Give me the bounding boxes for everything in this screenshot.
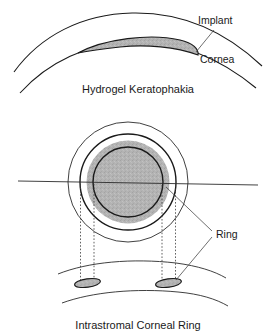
ring-segment-profile-right [155,277,182,289]
ring-segment-profile-left [74,277,101,289]
bottom-panel-group: Ring Intrastromal Corneal Ring [18,122,258,331]
cross-section-anterior-curve [58,261,226,278]
implant-leader-line [196,30,214,52]
ring-label: Ring [216,228,238,240]
ring-leader-line-bottom [176,237,212,280]
figure-container: Implant Cornea Hydrogel Keratophakia [0,0,276,335]
cornea-label: Cornea [200,53,235,65]
gray-lenticule [78,37,198,55]
ring-leader-line-top [166,187,212,231]
top-panel-group: Implant Cornea Hydrogel Keratophakia [14,13,262,95]
top-panel-caption: Hydrogel Keratophakia [82,83,195,95]
bottom-panel-caption: Intrastromal Corneal Ring [75,319,200,331]
implant-label: Implant [198,14,233,26]
cross-section-posterior-curve [62,290,228,306]
diagram-svg: Implant Cornea Hydrogel Keratophakia [0,0,276,335]
